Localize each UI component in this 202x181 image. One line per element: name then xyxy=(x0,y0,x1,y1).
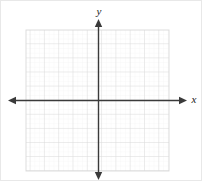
y-axis-arrow-down xyxy=(95,172,102,180)
y-axis-arrow-up xyxy=(95,19,102,27)
plot-svg xyxy=(1,1,202,181)
x-axis-label: x xyxy=(188,94,200,105)
coordinate-plane-figure: y x xyxy=(0,0,202,181)
y-axis-label: y xyxy=(93,6,105,17)
x-axis-arrow-right xyxy=(179,97,187,104)
x-axis-arrow-left xyxy=(8,97,16,104)
